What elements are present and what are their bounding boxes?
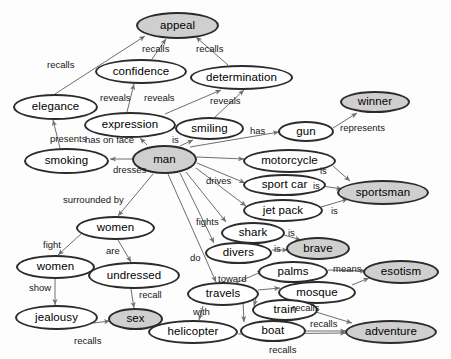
node-label-esotism: esotism	[381, 266, 421, 278]
node-palms[interactable]: palms	[258, 261, 328, 283]
edge-label-divers-brave: is	[274, 244, 281, 254]
node-sportsman[interactable]: sportsman	[337, 180, 429, 205]
edge-man-to-expression	[140, 138, 147, 145]
node-label-helicopter: helicopter	[168, 326, 219, 338]
node-label-smoking: smoking	[45, 155, 89, 167]
edge-label-boat-adventure: recalls	[310, 319, 337, 329]
node-label-appeal: appeal	[160, 20, 195, 32]
edge-man-to-smiling	[180, 140, 193, 146]
concept-map-canvas: appealconfidencedeterminationeleganceexp…	[0, 0, 451, 359]
node-label-sportsman: sportsman	[356, 187, 411, 199]
node-label-motorcycle: motorcycle	[261, 155, 318, 167]
edge-label-man-smiling: is	[172, 135, 179, 145]
node-jealousy[interactable]: jealousy	[15, 305, 98, 330]
node-adventure[interactable]: adventure	[345, 320, 437, 344]
edge-label-man-expression: has on face	[85, 135, 134, 145]
edge-man-to-travels	[168, 174, 216, 282]
node-label-travels: travels	[206, 288, 241, 300]
node-label-women_left: women	[37, 261, 75, 273]
node-label-divers: divers	[223, 247, 254, 259]
node-determination[interactable]: determination	[190, 65, 293, 90]
node-winner[interactable]: winner	[340, 91, 410, 113]
edge-label-confidence-appeal: recalls	[142, 44, 169, 54]
edge-man-to-motorcycle	[197, 157, 244, 159]
node-esotism[interactable]: esotism	[363, 260, 439, 284]
node-label-confidence: confidence	[113, 66, 170, 78]
node-gun[interactable]: gun	[278, 121, 334, 142]
node-elegance[interactable]: elegance	[13, 94, 98, 120]
edge-label-gun-winner: represents	[340, 123, 385, 133]
edge-label-man-gun: has	[250, 126, 265, 136]
edge-label-palms-esotism: means	[333, 264, 362, 274]
edge-label-jet_pack-sportsman: is	[331, 206, 338, 216]
node-smoking[interactable]: smoking	[24, 148, 109, 174]
node-label-brave: brave	[303, 243, 332, 255]
node-label-man: man	[153, 154, 176, 166]
node-label-jealousy: jealousy	[35, 312, 78, 324]
node-label-shark: shark	[239, 227, 268, 239]
node-label-gun: gun	[296, 126, 316, 138]
edge-label-jealousy-sex: recalls	[74, 336, 101, 346]
edge-label-women_left-jealousy: show	[29, 283, 51, 293]
node-travels[interactable]: travels	[187, 282, 259, 306]
edge-label-elegance-appeal: recalls	[47, 60, 74, 70]
edge-label-man-travels: do	[190, 253, 201, 263]
edge-women_top-to-undressed	[118, 240, 131, 262]
node-label-sport_car: sport car	[262, 179, 308, 191]
edge-label-shark-brave: is	[288, 228, 295, 238]
edge-label-undressed-sex: recall	[139, 290, 162, 300]
node-label-sex: sex	[126, 313, 144, 325]
node-label-mosque: mosque	[296, 287, 338, 299]
node-label-elegance: elegance	[32, 101, 79, 113]
node-boat[interactable]: boat	[240, 320, 306, 342]
edge-label-man-smoking: dresses	[113, 165, 146, 175]
edge-label-train-adventure: recalls	[292, 303, 319, 313]
edge-label-determination-appeal: recalls	[196, 44, 223, 54]
node-label-undressed: undressed	[107, 270, 162, 282]
node-label-winner: winner	[358, 96, 392, 108]
node-label-expression: expression	[102, 119, 159, 131]
edge-label-man-women_top: surrounded by	[63, 195, 124, 205]
edge-label-women_top-women_left: fight	[43, 240, 61, 250]
edge-travels-to-boat	[243, 302, 244, 322]
node-appeal[interactable]: appeal	[136, 12, 219, 39]
edge-travels-to-mosque	[258, 288, 280, 290]
edge-label-women_top-undressed: are	[106, 246, 120, 256]
edge-man-to-jet_pack	[196, 168, 246, 206]
edge-label-expression-determination: reveals	[144, 93, 175, 103]
node-brave[interactable]: brave	[286, 237, 350, 260]
edge-motorcycle-to-sportsman	[333, 166, 350, 181]
edge-label-travels-helicopter: with	[193, 307, 210, 317]
node-women_left[interactable]: women	[16, 255, 95, 279]
node-undressed[interactable]: undressed	[88, 262, 180, 289]
node-shark[interactable]: shark	[221, 222, 285, 244]
node-smiling[interactable]: smiling	[175, 117, 244, 140]
node-helicopter[interactable]: helicopter	[148, 320, 238, 344]
node-divers[interactable]: divers	[205, 242, 272, 264]
edge-mosque-to-esotism	[352, 278, 369, 285]
edge-label-smoking-elegance: presents	[50, 134, 86, 144]
node-label-adventure: adventure	[365, 326, 417, 338]
node-label-boat: boat	[262, 325, 285, 337]
edge-label-motorcycle-sportsman: is	[320, 166, 327, 176]
node-women_top[interactable]: women	[76, 216, 155, 240]
edge-label-smiling-determination: reveals	[210, 96, 241, 106]
node-label-palms: palms	[277, 266, 308, 278]
edge-label-sport_car-sportsman: is	[313, 181, 320, 191]
edge-undressed-to-sex	[131, 289, 134, 308]
edge-label-man-shark: fights	[196, 217, 219, 227]
edge-label-man-sport_car: drives	[206, 176, 231, 186]
node-label-women_top: women	[97, 222, 135, 234]
node-confidence[interactable]: confidence	[95, 59, 187, 84]
node-jet_pack[interactable]: jet pack	[243, 199, 323, 222]
node-label-jet_pack: jet pack	[263, 205, 303, 217]
edge-label-helicopter-adventure: recalls	[269, 345, 296, 355]
node-label-determination: determination	[206, 72, 277, 84]
node-label-smiling: smiling	[191, 123, 228, 135]
edge-label-travels-palms: toward	[218, 274, 247, 284]
edge-label-expression-confidence: reveals	[100, 93, 131, 103]
edge-women_top-to-women_left	[58, 233, 82, 255]
